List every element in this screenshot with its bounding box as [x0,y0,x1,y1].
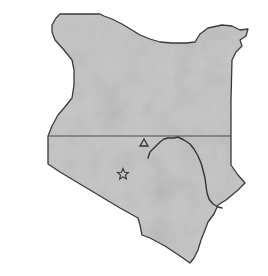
map-container: Kenya Equator line River Triangle marker… [0,0,268,276]
kenya-landmass [0,0,268,276]
map-canvas [0,0,268,276]
